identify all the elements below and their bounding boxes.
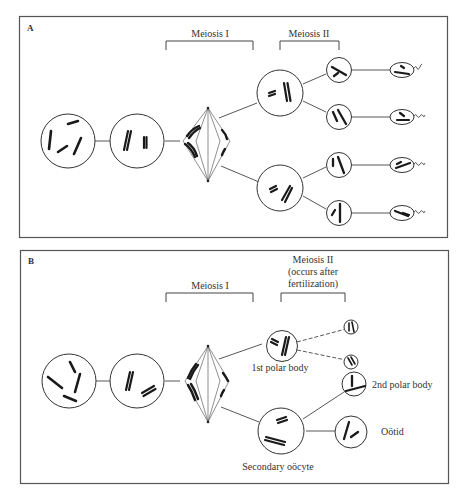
spermatid-2-a <box>327 105 352 130</box>
meiosis-1-label-b: Meiosis I <box>191 280 229 291</box>
sperm-4-a <box>390 206 425 221</box>
meiosis-2-label-b-line2: (occurs after <box>288 266 339 278</box>
secondary-cell-top-a <box>257 70 303 116</box>
meiosis-1-bracket-b <box>166 293 253 302</box>
panel-a-letter: A <box>27 23 34 33</box>
metaphase-spindle-b <box>185 345 229 424</box>
meiosis-2-bracket-a <box>280 41 339 50</box>
ootid-label: Oötid <box>381 426 404 437</box>
panel-b: B Meiosis I Meiosis II (occurs after fer… <box>21 251 449 484</box>
secondary-oocyte <box>258 408 304 454</box>
sperm-2-a <box>390 110 425 125</box>
replicated-cell-a <box>110 114 164 168</box>
meiosis-1-label-a: Meiosis I <box>191 28 229 39</box>
panel-a: A Meiosis I Meiosis II <box>20 17 448 238</box>
second-polar-body-label: 2nd polar body <box>372 379 433 390</box>
first-polar-body <box>267 331 298 362</box>
meiosis-1-bracket-a <box>166 41 253 50</box>
sperm-1-a <box>390 63 422 78</box>
spermatid-1-a <box>327 58 352 83</box>
spermatid-4-a <box>327 201 352 226</box>
ootid <box>335 416 367 448</box>
second-polar-body <box>342 372 366 396</box>
metaphase-spindle-a <box>183 107 230 183</box>
panel-b-letter: B <box>28 256 34 266</box>
polar-body-small-1 <box>344 320 358 334</box>
replicated-cell-b <box>110 354 164 408</box>
spermatid-3-a <box>327 153 352 178</box>
meiosis-2-label-a: Meiosis II <box>289 28 330 39</box>
first-polar-body-label: 1st polar body <box>251 362 308 373</box>
meiosis-2-label-b-line1: Meiosis II <box>293 254 334 265</box>
primary-cell-a <box>41 114 95 168</box>
polar-body-small-2 <box>344 355 358 369</box>
sperm-3-a <box>390 158 425 173</box>
meiosis-2-bracket-b <box>281 293 345 302</box>
secondary-oocyte-label: Secondary oöcyte <box>242 461 314 472</box>
meiosis-2-label-b-line3: fertilization) <box>288 278 338 290</box>
primary-oocyte-cell-b <box>42 354 96 408</box>
secondary-cell-bottom-a <box>257 165 303 211</box>
